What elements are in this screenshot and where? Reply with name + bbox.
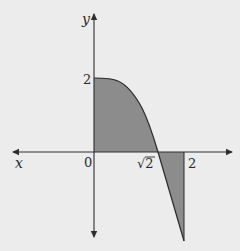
x-axis-label: x <box>15 155 23 171</box>
origin-label: 0 <box>84 155 92 170</box>
x-tick-2-label: 2 <box>188 156 196 171</box>
y-tick-2-label: 2 <box>83 72 91 87</box>
graph-canvas: y x 0 2 √2 2 <box>0 0 240 251</box>
x-tick-sqrt2-label: √2 <box>137 156 154 171</box>
y-axis-label: y <box>81 11 91 27</box>
positive-shaded-region <box>94 78 158 152</box>
